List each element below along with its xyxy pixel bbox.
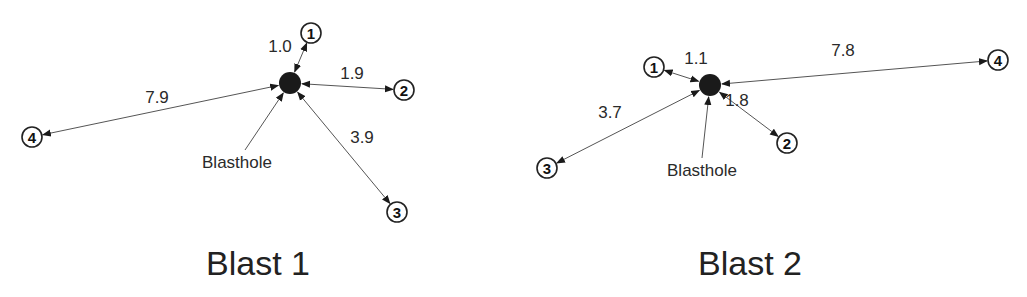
distance-arrow-4 (722, 61, 987, 84)
monitor-id: 1 (307, 25, 315, 42)
distance-label-4: 7.9 (145, 88, 169, 107)
distance-arrow-2 (302, 84, 393, 90)
distance-label-2: 1.9 (340, 64, 364, 83)
distance-label-1: 1.1 (684, 49, 708, 68)
distance-label-2: 1.8 (725, 91, 749, 110)
monitor-id: 2 (783, 135, 791, 152)
distance-arrow-3 (298, 92, 390, 203)
blasthole-label: Blasthole (667, 161, 737, 180)
monitor-node-4: 4 (988, 50, 1008, 70)
distance-label-3: 3.7 (598, 103, 622, 122)
monitor-node-3: 3 (387, 202, 407, 222)
distance-label-4: 7.8 (831, 41, 855, 60)
blasthole-label: Blasthole (202, 153, 272, 172)
monitor-id: 4 (28, 129, 37, 146)
monitor-node-2: 2 (394, 80, 414, 100)
monitor-node-1: 1 (644, 57, 664, 77)
monitor-id: 3 (393, 204, 401, 221)
blast-2-diagram: 1.11.83.77.8Blasthole1234Blast 2 (537, 41, 1008, 282)
monitor-id: 2 (400, 82, 408, 99)
monitor-id: 3 (543, 160, 551, 177)
blast-1-diagram: 1.01.93.97.9Blasthole1234Blast 1 (22, 23, 414, 282)
monitor-node-2: 2 (777, 133, 797, 153)
blasthole-marker (279, 72, 301, 94)
distance-label-1: 1.0 (268, 37, 292, 56)
distance-arrow-1 (295, 43, 307, 72)
monitor-id: 1 (650, 59, 658, 76)
monitor-node-3: 3 (537, 158, 557, 178)
blasthole-pointer (245, 93, 283, 150)
blast-layout-diagram: 1.01.93.97.9Blasthole1234Blast 1 1.11.83… (0, 0, 1027, 297)
distance-arrow-1 (664, 70, 698, 81)
diagram-title: Blast 1 (206, 244, 310, 282)
monitor-node-4: 4 (22, 127, 42, 147)
blasthole-pointer (702, 97, 709, 158)
blasthole-marker (699, 74, 721, 96)
distance-arrow-3 (557, 90, 700, 163)
diagram-title: Blast 2 (698, 244, 802, 282)
monitor-id: 4 (994, 52, 1003, 69)
monitor-node-1: 1 (301, 23, 321, 43)
distance-label-3: 3.9 (350, 128, 374, 147)
